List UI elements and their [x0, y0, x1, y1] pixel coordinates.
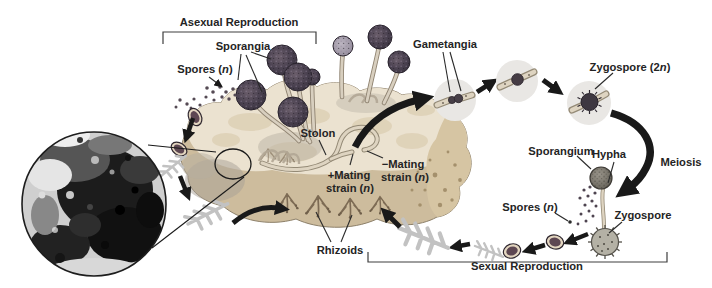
label-zygospore-2n: Zygospore (2n)	[590, 61, 671, 73]
gametangia-stage-circle	[434, 79, 476, 121]
label-gametangia: Gametangia	[413, 38, 478, 50]
sporangium-ball-light	[333, 36, 353, 56]
label-plus-mating-line1: +Mating	[328, 169, 371, 181]
spore-oval	[501, 241, 522, 260]
label-hypha: Hypha	[592, 148, 627, 160]
cycle-arrow	[532, 245, 545, 249]
new-sporangium	[590, 167, 612, 189]
zygospore-ball	[581, 94, 598, 111]
label-sporangium: Sporangium	[528, 145, 593, 157]
label-plus-mating-line2: strain (n)	[326, 182, 374, 194]
label-meiosis: Meiosis	[660, 156, 701, 168]
cycle-arrow	[459, 244, 470, 246]
young-zygote	[512, 74, 524, 86]
label-asexual-reproduction: Asexual Reproduction	[180, 16, 299, 28]
gametangium	[454, 94, 462, 102]
spore-dots-right	[577, 185, 598, 225]
zygospore-body	[588, 225, 622, 259]
spore-oval	[545, 233, 566, 251]
label-minus-mating-line1: −Mating	[382, 158, 425, 170]
cycle-arrow	[573, 234, 588, 240]
label-spores-top: Spores (n)	[177, 63, 233, 75]
stage-arrow	[477, 85, 488, 92]
cycle-arrow	[180, 176, 186, 191]
label-minus-mating-line2: strain (n)	[381, 171, 429, 183]
sporangium-ball	[368, 25, 392, 49]
label-rhizoids: Rhizoids	[317, 244, 364, 256]
label-sexual-reproduction: Sexual Reproduction	[471, 260, 583, 272]
sporangium-ball	[388, 51, 410, 73]
sporangium-ball	[278, 97, 308, 127]
zygospore-stage-circle	[567, 81, 611, 125]
germinating-spore	[475, 241, 503, 260]
lifecycle-diagram: Asexual Reproduction Sporangia Spores (n…	[0, 0, 712, 288]
label-zygospore: Zygospore	[614, 209, 671, 221]
bread-mold-lifecycle-figure: Asexual Reproduction Sporangia Spores (n…	[0, 0, 712, 288]
sporangium-ball	[236, 80, 266, 110]
germinating-spore	[399, 219, 449, 253]
label-sporangia: Sporangia	[216, 40, 271, 52]
label-spores-bottom: Spores (n)	[502, 201, 558, 213]
mold-photo	[22, 123, 166, 282]
label-stolon: Stolon	[301, 127, 336, 139]
fusion-stage-circle	[496, 60, 538, 102]
sporangium-ball	[284, 63, 312, 91]
stage-arrow	[543, 80, 554, 88]
